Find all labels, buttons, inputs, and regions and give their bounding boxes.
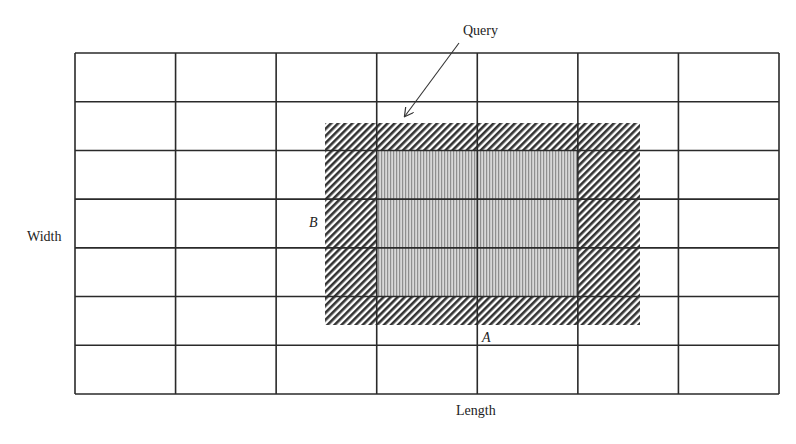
query-label: Query xyxy=(463,24,498,38)
width-axis-label: Width xyxy=(27,230,61,244)
query-arrow-icon xyxy=(405,43,459,116)
length-axis-label: Length xyxy=(456,404,496,418)
point-b-label: B xyxy=(309,216,318,230)
grid-query-diagram xyxy=(0,0,796,444)
point-a-label: A xyxy=(482,331,491,345)
